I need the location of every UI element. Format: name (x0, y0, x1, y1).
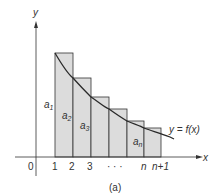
x-tick-n: n (141, 161, 147, 172)
y-axis-label: y (32, 7, 39, 18)
bar-a1 (55, 53, 73, 157)
bars (55, 53, 161, 157)
bar-a3 (91, 97, 109, 157)
x-axis-arrow-icon (196, 155, 203, 159)
x-axis-label: x (202, 152, 209, 163)
x-tick-n-plus-1: n+1 (152, 161, 169, 172)
x-tick-ellipsis: · · · (107, 161, 123, 172)
x-tick-1: 1 (52, 161, 58, 172)
origin-label: 0 (28, 161, 34, 172)
riemann-sum-diagram: y x 0 1 2 3 · · · n n+1 a1 a2 a3 an y = … (0, 0, 213, 196)
label-a1: a1 (44, 99, 54, 111)
bar-a2 (73, 78, 91, 157)
curve-label: y = f(x) (168, 124, 200, 135)
figure-caption: (a) (109, 182, 121, 193)
y-axis-arrow-icon (34, 21, 38, 28)
x-tick-3: 3 (87, 161, 93, 172)
bar-4 (109, 109, 127, 157)
x-tick-2: 2 (69, 161, 75, 172)
